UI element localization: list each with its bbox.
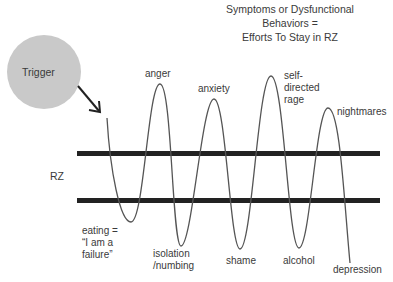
peak-label-anger: anger [145,68,171,80]
peak-label-nightmares: nightmares [337,106,386,118]
peak-label-self-directed-rage: self- directed rage [284,70,320,106]
trigger-arrow-icon [78,86,100,112]
trough-label-eating: eating = “I am a failure” [82,225,118,261]
title-line-1: Symptoms or Dysfunctional [190,2,390,16]
trough-label-alcohol: alcohol [283,255,315,267]
trough-label-shame: shame [226,255,256,267]
diagram-title: Symptoms or Dysfunctional Behaviors = Ef… [190,2,390,44]
trough-label-depression: depression [333,264,382,276]
trigger-label: Trigger [22,66,55,78]
title-line-2: Behaviors = [190,16,390,30]
title-line-3: Efforts To Stay in RZ [190,30,390,44]
rz-lower-bar [77,198,380,203]
rz-upper-bar [77,151,380,156]
rz-label: RZ [50,170,64,182]
peak-label-anxiety: anxiety [198,83,230,95]
trough-label-isolation: isolation /numbing [153,248,194,272]
